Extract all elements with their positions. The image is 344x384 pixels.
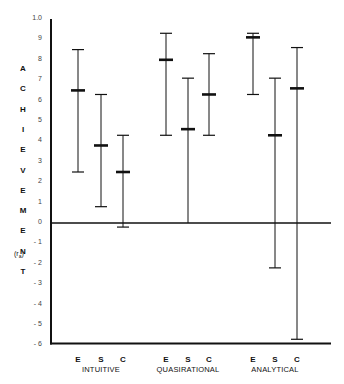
error-bar-analytical-c <box>290 48 304 340</box>
x-subcategory-label: C <box>117 355 129 364</box>
x-subcategory-label: C <box>291 355 303 364</box>
x-subcategory-label: S <box>95 355 107 364</box>
y-tick-label: - 5 <box>22 320 42 327</box>
y-tick-label: 7 <box>22 75 42 82</box>
x-group-label: ANALYTICAL <box>230 365 320 374</box>
y-tick-label: - 4 <box>22 300 42 307</box>
y-tick-label: 4 <box>22 136 42 143</box>
plot-area <box>0 0 344 384</box>
y-axis-label-letter: T <box>18 267 28 276</box>
y-axis-label-letter: E <box>18 226 28 235</box>
x-subcategory-label: S <box>182 355 194 364</box>
error-bar-intuitive-c <box>116 135 130 227</box>
x-subcategory-label: E <box>160 355 172 364</box>
y-axis-label-letter: I <box>18 125 28 134</box>
x-subcategory-label: E <box>247 355 259 364</box>
error-bar-quasirational-s <box>181 78 195 223</box>
y-tick-label: 0 <box>22 218 42 225</box>
y-axis-label-letter: E <box>18 186 28 195</box>
error-bar-quasirational-c <box>202 54 216 136</box>
x-group-label: QUASIRATIONAL <box>143 365 233 374</box>
y-tick-label: 3 <box>22 157 42 164</box>
x-group-label: INTUITIVE <box>56 365 146 374</box>
y-axis-label-letter: A <box>18 64 28 73</box>
y-tick-label: - 3 <box>22 279 42 286</box>
y-axis-label-letter: H <box>18 105 28 114</box>
y-tick-label: 9 <box>22 34 42 41</box>
y-tick-label: 1.0 <box>22 14 42 21</box>
error-bar-intuitive-e <box>71 50 85 172</box>
y-axis-label-letter: C <box>18 84 28 93</box>
error-bar-intuitive-s <box>94 94 108 206</box>
error-bar-analytical-e <box>246 33 260 94</box>
y-tick-label: 2 <box>22 177 42 184</box>
y-axis-label-letter: E <box>18 145 28 154</box>
x-subcategory-label: E <box>72 355 84 364</box>
y-axis-unit: (ra) <box>14 250 24 259</box>
y-tick-label: - 2 <box>22 259 42 266</box>
y-tick-label: 1 <box>22 198 42 205</box>
y-tick-label: 8 <box>22 55 42 62</box>
y-tick-label: 5 <box>22 116 42 123</box>
y-tick-label: - 1 <box>22 238 42 245</box>
error-bar-chart: 1.09876543210- 1- 2- 3- 4- 5- 6ACHIEVEME… <box>0 0 344 384</box>
y-axis-label-letter: V <box>18 166 28 175</box>
x-subcategory-label: S <box>269 355 281 364</box>
error-bar-quasirational-e <box>159 33 173 135</box>
error-bar-analytical-s <box>268 78 282 268</box>
y-tick-label: 6 <box>22 96 42 103</box>
y-tick-label: - 6 <box>22 340 42 347</box>
x-subcategory-label: C <box>203 355 215 364</box>
y-axis-label-letter: M <box>18 206 28 215</box>
